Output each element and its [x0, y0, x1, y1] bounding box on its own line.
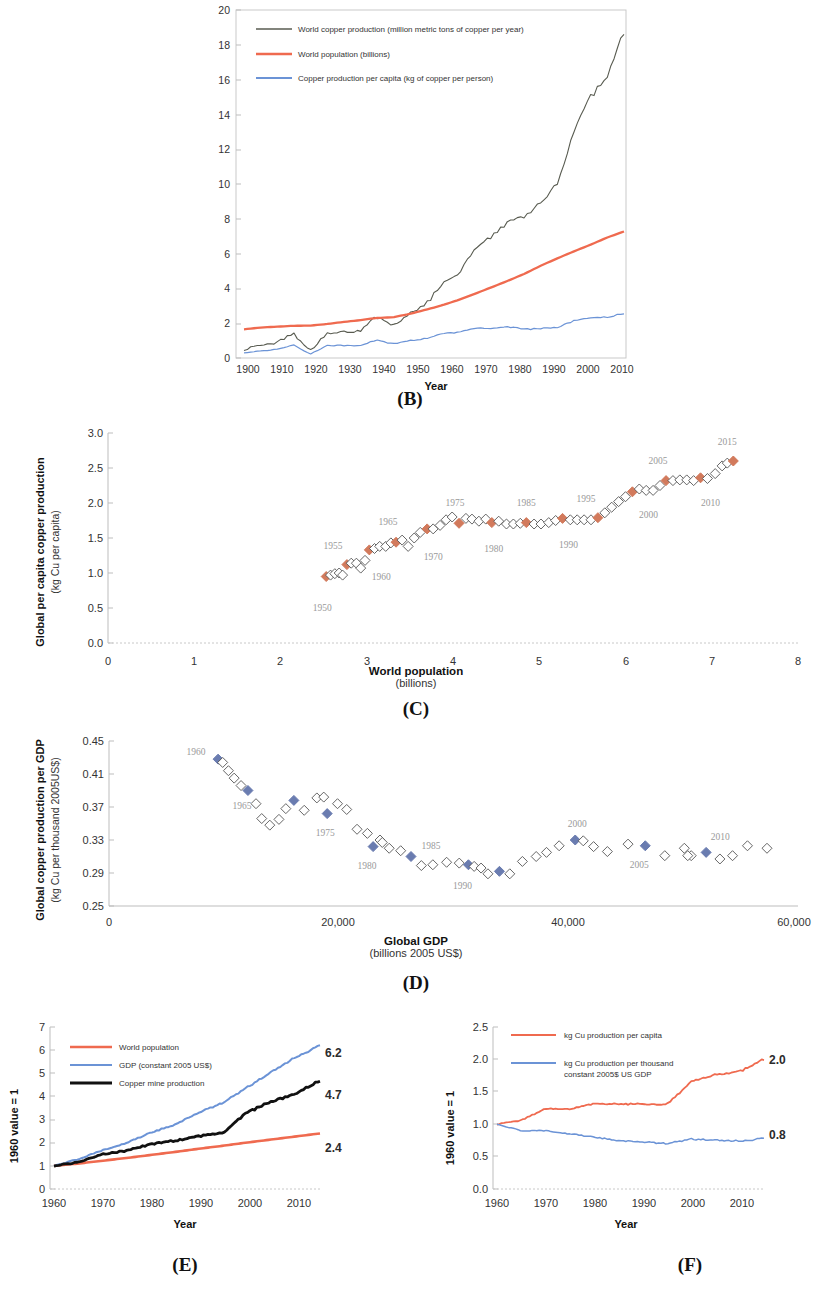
y-tick: 0 [39, 1183, 45, 1195]
panel-f-end-label-per-capita: 2.0 [769, 1053, 786, 1067]
y-tick: 1.5 [473, 1085, 488, 1097]
data-point-label: 1960 [372, 572, 391, 582]
panel-c-x-axis-label-1: World population [0, 665, 832, 677]
data-point-marker [223, 766, 233, 776]
data-point-label: 1980 [484, 544, 503, 554]
y-tick: 4 [39, 1090, 45, 1102]
data-point-marker [728, 851, 738, 861]
data-point-marker [265, 820, 275, 830]
x-tick: 1980 [508, 363, 532, 375]
y-tick: 0 [224, 352, 230, 364]
panel-f-y-ticks: 0.0 0.5 1.0 1.5 2.0 2.5 [473, 1021, 498, 1195]
data-point-marker [322, 809, 332, 819]
y-tick: 2.0 [473, 1053, 488, 1065]
legend-label: GDP (constant 2005 US$) [119, 1061, 212, 1070]
panel-e-x-ticks: 1960 1970 1980 1990 2000 2010 [42, 1197, 311, 1209]
panel-b-chart: 0 2 4 6 8 10 12 14 16 18 20 1900 1910 19… [200, 2, 832, 402]
data-point-label: 2015 [718, 437, 737, 447]
data-point-label: 1960 [187, 747, 206, 757]
data-point-marker [589, 842, 599, 852]
data-point-marker [517, 856, 527, 866]
panel-e: 1960 value = 1 0 1 2 3 4 5 6 7 1960 1970… [0, 1016, 416, 1246]
y-tick: 2.5 [473, 1021, 488, 1033]
panel-b-plot-frame [236, 10, 626, 358]
data-point-marker [384, 843, 394, 853]
data-point-marker [602, 847, 612, 857]
y-tick: 12 [218, 143, 230, 155]
panel-f-letter: (F) [620, 1254, 760, 1276]
legend-label: Copper production per capita (kg of copp… [298, 74, 494, 83]
data-point-label: 2010 [711, 832, 730, 842]
y-tick: 6 [224, 248, 230, 260]
data-point-marker [442, 857, 452, 867]
data-point-label: 2005 [649, 456, 668, 466]
panel-f: 1960 value = 1 0.0 0.5 1.0 1.5 2.0 2.5 1… [416, 1016, 832, 1246]
x-tick: 1980 [583, 1197, 607, 1209]
data-point-marker [505, 869, 515, 879]
y-tick: 14 [218, 109, 230, 121]
y-tick: 0.45 [83, 735, 104, 747]
y-tick: 5 [39, 1067, 45, 1079]
panel-c: Global per capita copper production (kg … [28, 422, 818, 682]
data-point-marker [274, 814, 284, 824]
data-point-label: 1985 [422, 841, 441, 851]
y-tick: 0.33 [83, 834, 104, 846]
data-point-marker [531, 852, 541, 862]
panel-e-end-label-copper: 4.7 [325, 1088, 342, 1102]
x-tick: 1990 [632, 1197, 656, 1209]
data-point-marker [299, 805, 309, 815]
y-tick: 1.5 [88, 532, 103, 544]
y-tick: 10 [218, 178, 230, 190]
data-point-marker [554, 841, 564, 851]
panel-d-x-ticks: 0 20,000 40,000 60,000 [106, 916, 811, 928]
data-point-marker [251, 799, 261, 809]
data-point-label: 1965 [232, 801, 251, 811]
legend-label: World population (billions) [298, 50, 390, 59]
data-point-marker [702, 474, 712, 484]
panel-c-y-ticks: 0.0 0.5 1.0 1.5 2.0 2.5 3.0 [88, 427, 113, 649]
legend-label-line2: constant 2005$ US GDP [564, 1070, 652, 1079]
data-point-marker [428, 860, 438, 870]
data-point-marker [396, 846, 406, 856]
y-tick: 0.0 [473, 1183, 488, 1195]
y-tick: 2 [224, 317, 230, 329]
data-point-label: 1975 [446, 498, 465, 508]
panel-e-legend: World population GDP (constant 2005 US$)… [70, 1043, 212, 1088]
panel-d-chart: Global copper production per GDP (kg Cu … [28, 730, 818, 940]
x-tick: 1970 [474, 363, 498, 375]
panel-c-chart: Global per capita copper production (kg … [28, 422, 818, 682]
y-tick: 0.41 [83, 768, 104, 780]
panel-d-x-axis-label-2: (billions 2005 US$) [0, 947, 832, 959]
x-tick: 2010 [730, 1197, 754, 1209]
data-point-marker [623, 839, 633, 849]
x-tick: 1960 [485, 1197, 509, 1209]
data-point-label: 2010 [701, 498, 720, 508]
panel-f-chart: 1960 value = 1 0.0 0.5 1.0 1.5 2.0 2.5 1… [416, 1016, 832, 1246]
panel-b: 0 2 4 6 8 10 12 14 16 18 20 1900 1910 19… [200, 2, 832, 402]
x-tick: 1970 [91, 1197, 115, 1209]
data-point-marker [333, 799, 343, 809]
panel-d-y-axis-label-2: (kg Cu per thousand 2005US$) [49, 757, 61, 902]
data-point-marker [342, 804, 352, 814]
y-tick: 2.0 [88, 497, 103, 509]
data-point-label: 1950 [313, 603, 332, 613]
data-point-marker [660, 851, 670, 861]
data-point-marker [762, 843, 772, 853]
data-point-label: 1955 [323, 541, 342, 551]
data-point-label: 1980 [358, 861, 377, 871]
y-tick: 2 [39, 1136, 45, 1148]
data-point-marker [368, 842, 378, 852]
data-point-label: 1990 [559, 540, 578, 550]
data-point-label: 1985 [517, 498, 536, 508]
y-tick: 16 [218, 74, 230, 86]
y-tick: 4 [224, 282, 230, 294]
panel-b-legend: World copper production (million metric … [256, 25, 524, 83]
x-tick: 0 [106, 916, 112, 928]
data-point-marker [281, 804, 291, 814]
y-tick: 7 [39, 1021, 45, 1033]
data-point-marker [416, 861, 426, 871]
y-tick: 1.0 [88, 567, 103, 579]
legend-label: kg Cu production per thousand [564, 1059, 673, 1068]
y-tick: 0.25 [83, 900, 104, 912]
data-point-marker [536, 519, 546, 529]
